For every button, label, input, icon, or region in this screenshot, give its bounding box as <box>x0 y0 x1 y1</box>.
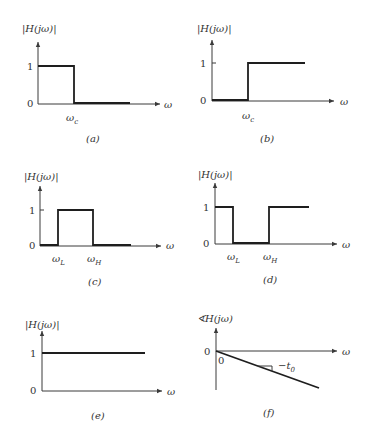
plot-b-ytick-1: 1 <box>200 58 206 69</box>
plot-c-ylabel: |H(jω)| <box>24 171 59 183</box>
plot-a-curve <box>38 66 130 103</box>
plot-e-allpass: |H(jω)| 1 0 ω (e) <box>25 319 175 421</box>
filter-response-figure: |H(jω)| 1 0 ωc (a) |H(jω)| 1 0 ω ωc (b) … <box>0 0 377 433</box>
plot-a-ytick-0: 0 <box>27 98 33 109</box>
plot-d-xtick-wh: ωH <box>263 251 278 265</box>
plot-b-ylabel: |H(jω)| <box>197 23 232 35</box>
plot-b-highpass: |H(jω)| 1 0 ω ωc (b) <box>197 23 348 144</box>
plot-a-lowpass: |H(jω)| 1 0 ωc (a) <box>22 23 160 144</box>
plot-b-curve <box>212 63 305 100</box>
plot-f-slope-label: −t0 <box>278 360 295 374</box>
plot-a-caption: (a) <box>86 133 100 144</box>
plot-d-caption: (d) <box>263 274 277 285</box>
plot-f-curve <box>216 351 319 388</box>
plot-c-xtick-wl: ωL <box>52 253 65 267</box>
plot-b-ytick-0: 0 <box>200 95 206 106</box>
plot-d-bandstop: |H(jω)| 1 0 ω ωL ωH (d) <box>198 169 350 285</box>
plot-a-ytick-1: 1 <box>27 61 33 72</box>
plot-a-ylabel: |H(jω)| <box>22 23 57 35</box>
plot-e-ytick-1: 1 <box>30 348 36 359</box>
plot-c-xtick-wh: ωH <box>87 253 102 267</box>
plot-d-xtick-wl: ωL <box>227 251 240 265</box>
plot-c-bandpass: |H(jω)| 1 0 ω ωL ωH (c) <box>24 171 174 287</box>
plot-d-curve <box>215 207 309 243</box>
plot-c-ytick-0: 0 <box>29 240 35 251</box>
plot-d-ylabel: |H(jω)| <box>198 169 233 181</box>
plot-b-xlabel: ω <box>340 96 348 107</box>
plot-d-ytick-0: 0 <box>203 238 209 249</box>
plot-f-ytick-0: 0 <box>204 346 210 357</box>
plot-e-ytick-0: 0 <box>30 385 36 396</box>
plot-c-xlabel: ω <box>166 240 174 251</box>
plot-c-caption: (c) <box>88 276 102 287</box>
plot-c-ytick-1: 1 <box>29 205 35 216</box>
plot-d-xlabel: ω <box>342 239 350 250</box>
plot-f-xtick-0: 0 <box>218 355 224 366</box>
plot-e-xlabel: ω <box>167 386 175 397</box>
plot-e-ylabel: |H(jω)| <box>25 319 60 331</box>
plot-a-xtick-wc: ωc <box>66 112 78 126</box>
plot-f-ylabel: ∢H(jω) <box>197 313 233 324</box>
plot-f-caption: (f) <box>263 407 275 418</box>
plot-b-caption: (b) <box>260 133 274 144</box>
plot-f-linear-phase: ∢H(jω) 0 0 −t0 ω (f) <box>197 313 350 418</box>
plot-c-curve <box>40 210 131 245</box>
plot-e-caption: (e) <box>91 410 105 421</box>
plot-f-xlabel: ω <box>342 346 350 357</box>
plot-a-xlabel: ω <box>164 99 172 110</box>
plot-d-ytick-1: 1 <box>203 202 209 213</box>
plot-b-xtick-wc: ωc <box>242 110 254 124</box>
